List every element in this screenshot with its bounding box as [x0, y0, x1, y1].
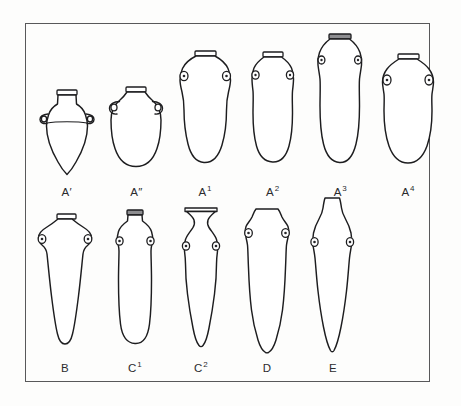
vessel-label-e: E [329, 363, 337, 375]
vessel-drawing-a-double-prime [103, 82, 169, 182]
vessel-label-c-1: C1 [128, 363, 142, 375]
typology-plate: A′ A″ [0, 0, 461, 406]
vessel-label-a-3-sup: 3 [342, 184, 347, 193]
vessel-label-a-1-sup: 1 [207, 184, 212, 193]
vessel-a-2[interactable]: A2 [239, 50, 307, 199]
vessel-drawing-a-3 [310, 34, 370, 182]
vessel-a-3[interactable]: A3 [307, 34, 375, 199]
vessel-drawing-a-1 [173, 50, 237, 182]
vessel-e[interactable]: E [300, 196, 366, 375]
vessel-label-c-1-base: C [128, 362, 137, 374]
vessel-label-d: D [263, 363, 272, 375]
vessel-c-1[interactable]: C1 [102, 208, 168, 375]
vessel-drawing-a-4 [375, 50, 441, 182]
vessel-label-c-2-sup: 2 [203, 360, 208, 369]
vessel-a-4[interactable]: A4 [374, 50, 442, 199]
vessel-drawing-c-2 [173, 206, 229, 358]
vessel-a-1[interactable]: A1 [171, 50, 239, 199]
vessel-drawing-c-1 [109, 208, 161, 358]
vessel-label-c-2-base: C [194, 362, 203, 374]
vessel-label-a-2-sup: 2 [275, 184, 280, 193]
vessel-d[interactable]: D [234, 206, 300, 375]
vessel-row-2: B C1 [28, 196, 388, 375]
vessel-drawing-a-prime [36, 82, 98, 182]
vessel-c-2[interactable]: C2 [168, 206, 234, 375]
vessel-label-b: B [61, 363, 69, 375]
vessel-label-c-2: C2 [194, 363, 208, 375]
vessel-a-double-prime[interactable]: A″ [102, 82, 172, 199]
vessel-drawing-a-2 [243, 50, 303, 182]
vessel-label-a-4-base: A [401, 186, 409, 198]
vessel-label-c-1-sup: 1 [137, 360, 142, 369]
vessel-label-a-4: A4 [401, 187, 414, 199]
vessel-drawing-d [239, 206, 295, 358]
vessel-a-prime[interactable]: A′ [32, 82, 102, 199]
vessel-label-a-4-sup: 4 [410, 184, 415, 193]
vessel-row-1: A′ A″ [32, 34, 442, 199]
vessel-drawing-b [32, 210, 98, 358]
vessel-drawing-e [306, 196, 360, 358]
vessel-b[interactable]: B [28, 210, 102, 375]
